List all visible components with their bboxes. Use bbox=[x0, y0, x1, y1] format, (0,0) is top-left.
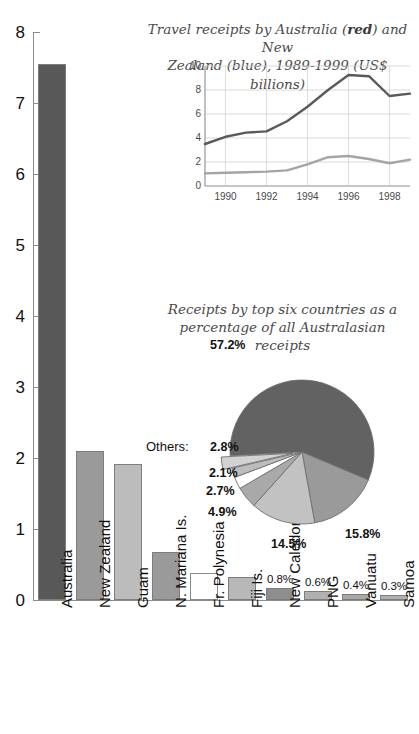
pie-slice-label: 2.1% bbox=[209, 466, 238, 480]
pie-slice-label: 14.5% bbox=[271, 537, 306, 551]
pie-slice-label: 2.7% bbox=[206, 484, 235, 498]
pie-slice-label: 57.2% bbox=[210, 338, 245, 352]
pie-others-label: Others: bbox=[146, 439, 189, 454]
pie-slice-label: 15.8% bbox=[345, 527, 380, 541]
pie-slice-label: 2.8% bbox=[210, 440, 239, 454]
figure-panel: 012345678AustraliaNew ZealandGuamN. Mari… bbox=[0, 0, 419, 734]
pie-slice-label: 4.9% bbox=[208, 505, 237, 519]
